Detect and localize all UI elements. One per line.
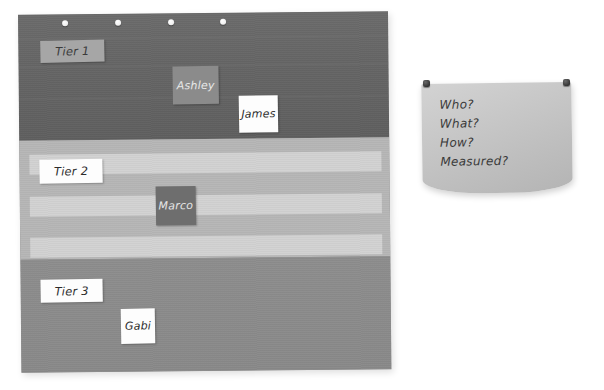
name-note-text: Ashley xyxy=(177,78,215,92)
scene-root: Tier 1 Tier 2 Tier 3 Ashley James Marco … xyxy=(0,0,604,390)
name-note-ashley[interactable]: Ashley xyxy=(172,66,219,105)
name-note-marco[interactable]: Marco xyxy=(156,186,197,226)
paper-question-line: Who? xyxy=(439,97,507,112)
board-pin-icon[interactable] xyxy=(62,20,68,26)
tier-label-text: Tier 1 xyxy=(55,44,89,59)
name-note-text: James xyxy=(241,107,275,121)
paper-question-line: How? xyxy=(440,135,508,150)
paper-question-line: What? xyxy=(440,116,508,131)
pushpin-icon[interactable] xyxy=(423,80,430,87)
board-pin-icon[interactable] xyxy=(220,19,226,25)
name-note-text: Marco xyxy=(158,199,193,213)
tier-label-note-3[interactable]: Tier 3 xyxy=(40,279,102,303)
tier1-band-line xyxy=(18,35,388,40)
paper-question-list: Who? What? How? Measured? xyxy=(439,97,508,169)
tier-label-text: Tier 3 xyxy=(54,283,88,298)
tier-label-note-2[interactable]: Tier 2 xyxy=(39,159,102,184)
board-pin-icon[interactable] xyxy=(168,19,174,25)
board-pin-icon[interactable] xyxy=(115,20,121,26)
tier2-stripe xyxy=(30,234,382,257)
paper-sheet[interactable]: Who? What? How? Measured? xyxy=(421,82,573,194)
tier-label-text: Tier 2 xyxy=(54,164,88,179)
name-note-text: Gabi xyxy=(125,319,151,332)
tier-band-2[interactable] xyxy=(19,137,390,260)
name-note-gabi[interactable]: Gabi xyxy=(121,308,156,344)
paper-question-line: Measured? xyxy=(440,154,508,169)
tier2-stripe xyxy=(30,193,382,216)
tier-band-3[interactable] xyxy=(20,256,391,373)
tier-label-note-1[interactable]: Tier 1 xyxy=(40,40,104,63)
tiered-chart-board[interactable]: Tier 1 Tier 2 Tier 3 Ashley James Marco … xyxy=(18,11,391,373)
name-note-james[interactable]: James xyxy=(239,95,279,133)
questions-paper-note[interactable]: Who? What? How? Measured? xyxy=(422,83,572,199)
pushpin-icon[interactable] xyxy=(563,79,570,86)
